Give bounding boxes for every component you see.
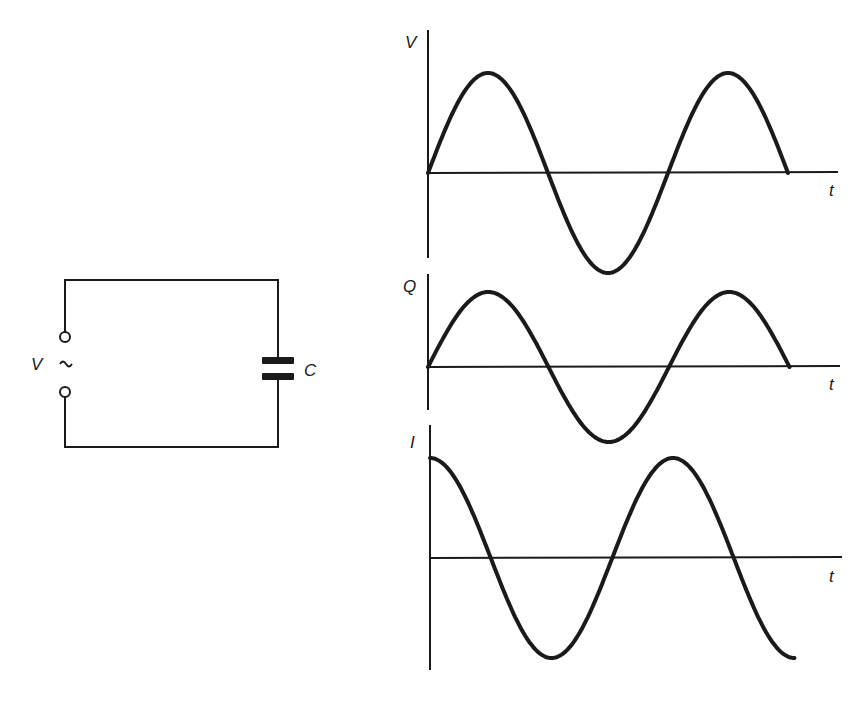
terminal-bottom-icon [60, 387, 70, 397]
y-label-voltage: V [405, 33, 418, 52]
source-label: V [31, 355, 44, 374]
capacitor-plate-top [262, 357, 294, 364]
graph-current: I t [410, 425, 842, 670]
y-label-current: I [410, 433, 415, 452]
graph-charge: Q t [403, 274, 840, 442]
x-axis-charge [428, 366, 840, 367]
figure-canvas: V C V t Q t I t [0, 0, 866, 710]
capacitor-label: C [304, 361, 317, 380]
x-label-voltage: t [829, 181, 835, 200]
y-label-charge: Q [403, 277, 416, 296]
graph-voltage: V t [405, 30, 838, 273]
circuit-wire-bottom [65, 378, 278, 447]
circuit-diagram: V C [31, 280, 317, 447]
terminal-top-icon [60, 332, 70, 342]
x-axis-voltage [428, 172, 838, 173]
capacitor-plate-bottom [262, 373, 294, 380]
ac-source-tilde-icon [60, 362, 72, 367]
circuit-wire-top [65, 280, 278, 358]
x-label-current: t [829, 567, 835, 586]
x-label-charge: t [829, 375, 835, 394]
